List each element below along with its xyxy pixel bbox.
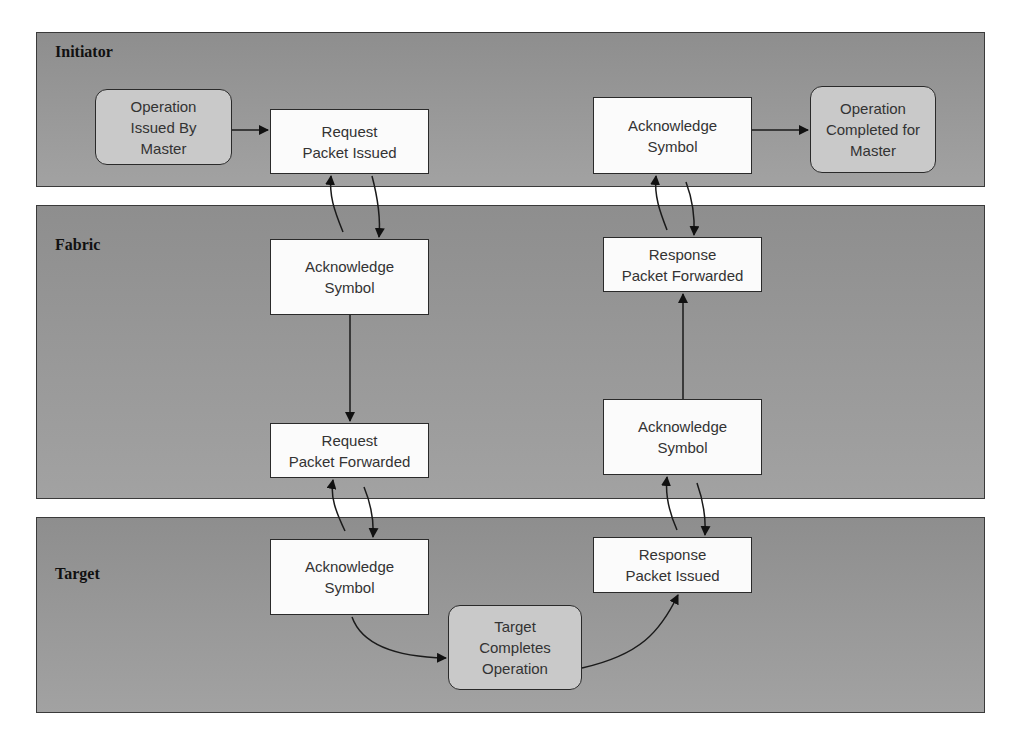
arrow-ack-fabric-to-request-issued	[331, 176, 343, 232]
arrow-ack-init-to-response-forwarded	[686, 182, 694, 235]
arrow-ack-target-to-target-completes	[352, 617, 446, 658]
arrow-request-forwarded-to-ack-target	[364, 487, 373, 537]
arrow-response-forwarded-to-ack-init	[656, 176, 667, 230]
arrow-target-completes-to-response-issued	[582, 595, 678, 668]
arrow-ack-target-to-request-forwarded	[332, 480, 345, 531]
arrow-ack-fabric-to-response-issued	[697, 483, 705, 535]
arrow-request-issued-to-ack-fabric	[372, 176, 380, 237]
connector-arrows	[0, 0, 1014, 742]
arrow-response-issued-to-ack-fabric	[666, 477, 677, 530]
